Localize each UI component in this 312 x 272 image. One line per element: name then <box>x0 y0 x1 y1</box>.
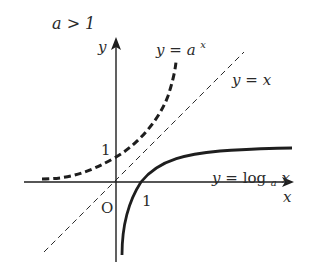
condition-label: a > 1 <box>52 14 95 33</box>
exponential-curve <box>42 62 176 179</box>
x-tick-one: 1 <box>142 192 152 210</box>
function-graph: a > 1 y x O 1 1 y = a x y = x y = log a … <box>0 0 312 272</box>
exponential-label: y = a x <box>155 39 206 59</box>
y-axis-label: y <box>97 38 107 56</box>
y-tick-one: 1 <box>101 141 111 159</box>
identity-label: y = x <box>231 71 272 89</box>
origin-label: O <box>101 199 113 217</box>
x-axis-label: x <box>283 188 292 206</box>
logarithm-label: y = log a x <box>211 169 291 190</box>
